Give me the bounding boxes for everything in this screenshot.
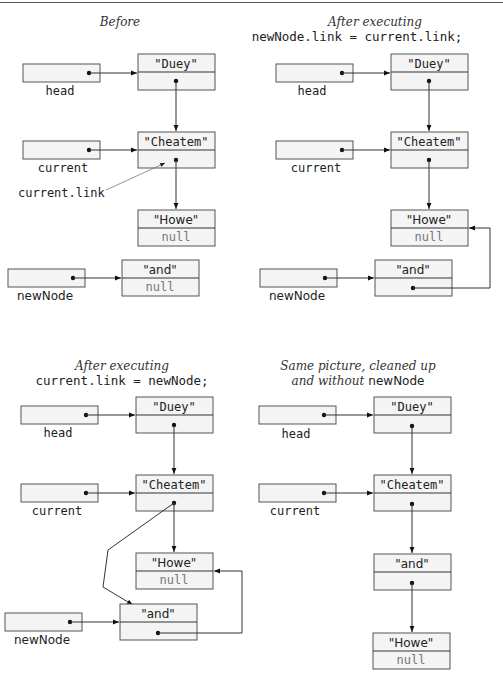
head-label: head bbox=[44, 426, 73, 440]
node-link-null: null bbox=[160, 573, 189, 587]
node-data: "Howe" bbox=[154, 213, 199, 227]
head-label: head bbox=[298, 84, 327, 98]
newnode-label: newNode bbox=[17, 289, 73, 303]
node-data: "and" bbox=[396, 263, 430, 277]
panel-caption: After executing bbox=[327, 15, 422, 29]
node-link-null: null bbox=[146, 280, 175, 294]
node-data: "Howe" bbox=[389, 636, 434, 650]
panel-after-current-link: After executing current.link = newNode; … bbox=[5, 359, 242, 647]
node-data: "Cheatem" bbox=[396, 135, 461, 149]
panel-before: Before head "Duey" current "Cheatem" cur… bbox=[8, 15, 215, 303]
panel-caption: After executing bbox=[74, 359, 169, 373]
node-data: "Howe" bbox=[152, 556, 197, 570]
head-label: head bbox=[46, 84, 75, 98]
current-label: current bbox=[270, 504, 321, 518]
node-link-null: null bbox=[415, 230, 444, 244]
annotation-arrow bbox=[106, 163, 165, 190]
node-data: "Howe" bbox=[407, 213, 452, 227]
node-data: "Cheatem" bbox=[143, 135, 208, 149]
current-label: current bbox=[291, 161, 342, 175]
node-data: "Duey" bbox=[407, 57, 450, 71]
node-data: "and" bbox=[143, 263, 177, 277]
node-data: "Duey" bbox=[152, 400, 195, 414]
node-data: "Duey" bbox=[154, 57, 197, 71]
linked-list-diagram: Before head "Duey" current "Cheatem" cur… bbox=[0, 0, 503, 675]
panel-caption-line2: and withoutnewNode bbox=[292, 374, 425, 388]
node-data: "Duey" bbox=[390, 400, 433, 414]
newnode-label: newNode bbox=[14, 633, 70, 647]
panel-caption: Same picture, cleaned up bbox=[280, 359, 436, 373]
panel-cleaned-up: Same picture, cleaned up and withoutnewN… bbox=[259, 359, 451, 669]
node-data: "Cheatem" bbox=[379, 478, 444, 492]
panel-caption-code: current.link = newNode; bbox=[35, 373, 208, 388]
newnode-label: newNode bbox=[269, 289, 325, 303]
panel-after-newnode-link: After executing newNode.link = current.l… bbox=[252, 15, 490, 303]
current-label: current bbox=[38, 161, 89, 175]
current-label: current bbox=[32, 504, 83, 518]
panel-caption: Before bbox=[99, 15, 140, 29]
node-link-null: null bbox=[162, 230, 191, 244]
node-data: "Cheatem" bbox=[141, 478, 206, 492]
node-data: "and" bbox=[395, 557, 429, 571]
node-link-null: null bbox=[397, 653, 426, 667]
panel-caption-code: newNode.link = current.link; bbox=[252, 29, 463, 44]
head-label: head bbox=[282, 427, 311, 441]
node-data: "and" bbox=[141, 607, 175, 621]
annotation-current-link: current.link bbox=[18, 186, 105, 200]
